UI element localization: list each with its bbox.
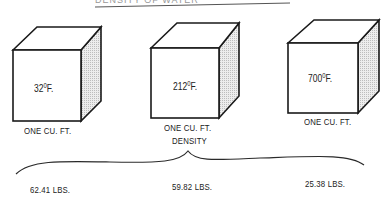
cube-temp-label: 320F. — [34, 82, 53, 94]
density-value: 62.41 LBS. — [30, 184, 70, 195]
cube-700f — [288, 20, 379, 113]
cube-drawing — [0, 0, 391, 203]
volume-label: ONE CU. FT. — [164, 122, 211, 133]
cube-temp-label: 2120F. — [173, 80, 197, 92]
density-label: DENSITY — [172, 135, 207, 146]
cube-32f — [13, 27, 101, 121]
volume-label: ONE CU. FT. — [304, 116, 351, 127]
density-value: 25.38 LBS. — [305, 178, 345, 189]
cube-212f — [151, 23, 239, 118]
cube-temp-label: 7000F. — [308, 72, 332, 84]
curly-brace — [16, 151, 364, 174]
density-value: 59.82 LBS. — [172, 181, 212, 192]
volume-label: ONE CU. FT. — [24, 125, 71, 136]
heading-underline — [95, 3, 290, 7]
